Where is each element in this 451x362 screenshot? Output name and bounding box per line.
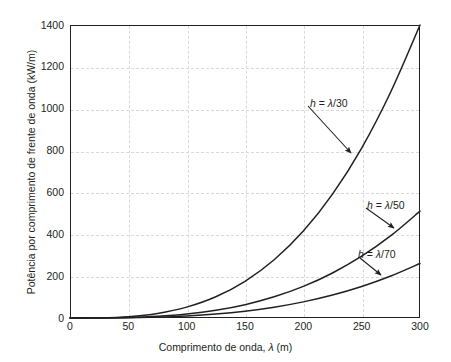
y-axis-tick-label: 1200 xyxy=(0,61,64,72)
gridline-horizontal xyxy=(71,68,419,69)
x-axis-title: Comprimento de onda, λ (m) xyxy=(0,341,451,353)
y-axis-tick-label: 800 xyxy=(0,145,64,156)
curve-annotation-label: h = λ/50 xyxy=(367,199,405,211)
gridline-horizontal xyxy=(71,152,419,153)
gridline-vertical xyxy=(129,26,130,317)
y-axis-tick-label: 1000 xyxy=(0,103,64,114)
gridline-vertical xyxy=(363,26,364,317)
y-axis-tick-label: 200 xyxy=(0,271,64,282)
gridline-vertical xyxy=(188,26,189,317)
gridline-vertical xyxy=(304,26,305,317)
y-axis-tick-label: 400 xyxy=(0,229,64,240)
y-axis-tick-label: 600 xyxy=(0,187,64,198)
curve-annotation-label: h = λ/70 xyxy=(358,248,396,260)
gridline-horizontal xyxy=(71,277,419,278)
plot-area xyxy=(70,25,420,318)
gridline-vertical xyxy=(246,26,247,317)
wave-power-chart: Comprimento de onda, λ (m) Potência por … xyxy=(0,0,451,362)
x-axis-tick-label: 100 xyxy=(167,321,207,332)
gridline-horizontal xyxy=(71,193,419,194)
x-axis-tick-label: 50 xyxy=(108,321,148,332)
gridline-horizontal xyxy=(71,235,419,236)
x-axis-tick-label: 0 xyxy=(50,321,90,332)
x-axis-tick-label: 150 xyxy=(225,321,265,332)
x-axis-tick-label: 300 xyxy=(400,321,440,332)
gridline-horizontal xyxy=(71,110,419,111)
y-axis-tick-label: 1400 xyxy=(0,20,64,31)
x-axis-tick-label: 250 xyxy=(342,321,382,332)
curve-annotation-label: h = λ/30 xyxy=(310,97,348,109)
x-axis-tick-label: 200 xyxy=(283,321,323,332)
